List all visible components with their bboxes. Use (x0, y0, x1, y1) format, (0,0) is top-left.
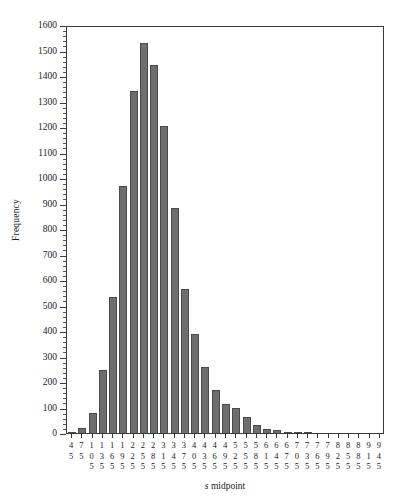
x-axis-tick (102, 434, 103, 438)
x-axis-tick-label: 885 (356, 440, 360, 472)
x-axis-tick (81, 434, 82, 438)
x-axis-tick-label-digit: 5 (336, 461, 340, 472)
histogram-bar (150, 65, 158, 433)
x-axis-tick-label-digit: 6 (213, 451, 217, 462)
histogram-bar (140, 43, 148, 433)
x-axis-tick (163, 434, 164, 438)
x-axis-tick-label-digit: 4 (213, 440, 217, 451)
x-axis-tick-label-digit: 2 (131, 451, 135, 462)
x-axis-tick-label-digit: 3 (172, 440, 176, 451)
x-axis-tick-label: 165 (110, 440, 114, 472)
x-axis-tick-label-digit: 5 (172, 461, 176, 472)
x-axis-tick (287, 434, 288, 438)
x-axis-tick-label-digit: 8 (151, 451, 155, 462)
x-axis-tick (92, 434, 93, 438)
x-axis-tick-label: 315 (161, 440, 165, 472)
x-axis-tick (369, 434, 370, 438)
y-axis-ticks: 0100200300400500600700800900100011001200… (0, 26, 66, 434)
x-axis-title-rest: midpoint (209, 481, 246, 491)
x-axis-tick-label: 735 (305, 440, 309, 472)
x-axis-tick-label-digit: 0 (295, 451, 299, 462)
x-axis-tick-label: 285 (151, 440, 155, 472)
y-axis-tick-label: 200 (43, 378, 57, 388)
x-axis-tick-label-digit: 5 (377, 461, 381, 472)
x-axis-tick (246, 434, 247, 438)
x-axis-tick-label-digit: 5 (110, 461, 114, 472)
x-axis-tick (143, 434, 144, 438)
histogram-bar (78, 428, 86, 433)
x-axis-tick-label: 495 (223, 440, 227, 472)
x-axis-tick-label-digit: 8 (254, 451, 258, 462)
x-axis-tick (122, 434, 123, 438)
x-axis-tick-label-digit: 5 (274, 461, 278, 472)
x-axis-tick-label-digit: 6 (315, 451, 319, 462)
x-axis-tick (317, 434, 318, 438)
y-axis-tick-label: 300 (43, 353, 57, 363)
x-axis-tick-label-digit: 5 (100, 461, 104, 472)
histogram-bar (263, 429, 271, 433)
x-axis-tick (358, 434, 359, 438)
x-axis-tick (328, 434, 329, 438)
x-axis-tick-label-digit: 5 (233, 461, 237, 472)
x-axis-tick (235, 434, 236, 438)
y-axis-tick-label: 1000 (38, 174, 57, 184)
x-axis-tick-label-digit: 6 (264, 440, 268, 451)
y-axis-tick-label: 1600 (38, 21, 57, 31)
bar-series (67, 27, 383, 433)
x-axis-tick (225, 434, 226, 438)
x-axis-tick-label-digit: 5 (131, 461, 135, 472)
y-axis-tick-label: 1500 (38, 47, 57, 57)
histogram-bar (273, 430, 281, 433)
x-axis-tick (153, 434, 154, 438)
x-axis-tick-label-digit: 4 (69, 440, 73, 451)
x-axis-tick (112, 434, 113, 438)
x-axis-tick-label: 825 (336, 440, 340, 472)
x-axis-tick-label: 255 (141, 440, 145, 472)
x-axis-tick-label: 915 (366, 440, 370, 472)
x-axis-tick (379, 434, 380, 438)
histogram-bar (181, 289, 189, 433)
x-axis-tick (204, 434, 205, 438)
histogram-bar (89, 413, 97, 433)
x-axis-tick-label-digit: 5 (223, 461, 227, 472)
x-axis-tick (174, 434, 175, 438)
x-axis-tick-label-digit: 4 (274, 451, 278, 462)
x-axis-title: s midpoint (66, 481, 384, 491)
x-axis-tick-label-digit: 9 (223, 451, 227, 462)
histogram-bar (68, 432, 76, 433)
x-axis-tick (256, 434, 257, 438)
x-axis-tick-label: 435 (202, 440, 206, 472)
histogram-bar (191, 334, 199, 433)
x-axis-tick-label-digit: 3 (202, 451, 206, 462)
histogram-figure: Frequency 010020030040050060070080090010… (0, 0, 394, 503)
x-axis-tick-label: 555 (243, 440, 247, 472)
x-axis-tick-label-digit: 0 (192, 451, 196, 462)
histogram-bar (232, 408, 240, 433)
x-axis-tick-label: 465 (213, 440, 217, 472)
x-axis-tick-label-digit: 5 (356, 461, 360, 472)
x-axis-tick-label: 585 (254, 440, 258, 472)
y-axis-tick-label: 0 (52, 429, 57, 439)
x-axis-tick-label-digit: 8 (346, 440, 350, 451)
x-axis-tick-label-digit: 5 (213, 461, 217, 472)
x-axis-tick-label-digit: 3 (161, 440, 165, 451)
x-axis-tick-label: 225 (131, 440, 135, 472)
x-axis-tick-label-digit: 8 (356, 451, 360, 462)
x-axis-tick-label-digit: 2 (151, 440, 155, 451)
x-axis-tick-label-digit: 5 (366, 461, 370, 472)
x-axis-tick-label-digit: 3 (100, 451, 104, 462)
y-axis-tick-label: 100 (43, 404, 57, 414)
x-axis-tick-label-digit: 2 (233, 451, 237, 462)
x-axis-tick-label-digit: 1 (110, 440, 114, 451)
x-axis-tick-label-digit: 1 (264, 451, 268, 462)
x-axis-tick-label: 135 (100, 440, 104, 472)
histogram-bar (284, 432, 292, 433)
y-axis-tick-label: 800 (43, 225, 57, 235)
x-axis-tick-label-digit: 6 (284, 440, 288, 451)
x-axis-tick-label-digit: 9 (120, 451, 124, 462)
x-axis-tick-label-digit: 4 (377, 451, 381, 462)
x-axis-tick-label-digit: 5 (346, 451, 350, 462)
x-axis-tick (71, 434, 72, 438)
x-axis-tick-label-digit: 5 (264, 461, 268, 472)
x-axis-tick-label-digit: 7 (325, 440, 329, 451)
